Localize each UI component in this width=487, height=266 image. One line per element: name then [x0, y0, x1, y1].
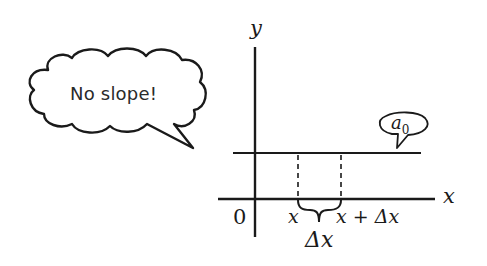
a0-label: a0	[391, 114, 409, 136]
a0-label-base: a	[391, 112, 402, 133]
interval-end-label: x + Δx	[336, 207, 399, 226]
speech-bubble-text: No slope!	[70, 85, 157, 103]
interval-width-label: Δx	[305, 229, 333, 251]
diagram-canvas: No slope! y x 0 a0 x x + Δx Δx	[0, 0, 487, 266]
origin-label: 0	[233, 207, 246, 228]
a0-label-subscript: 0	[402, 123, 410, 137]
x-axis-label: x	[443, 186, 455, 207]
y-axis-label: y	[250, 18, 262, 39]
interval-brace	[298, 200, 341, 222]
interval-start-label: x	[288, 207, 299, 226]
